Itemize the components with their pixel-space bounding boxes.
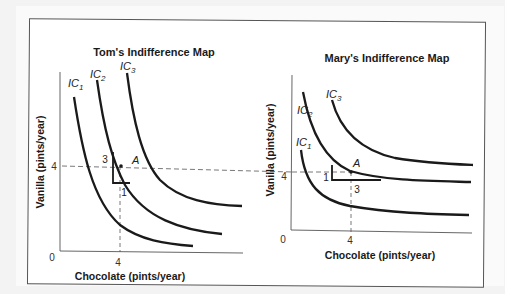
mary-origin-label: 0 <box>280 234 286 245</box>
tom-ic1-label: IC1 <box>68 77 83 92</box>
mary-x-label: Chocolate (pints/year) <box>325 249 435 261</box>
mary-y-tick-4: 4 <box>281 171 287 182</box>
tom-x-tick-4: 4 <box>115 257 121 268</box>
tom-x-axis <box>60 251 243 253</box>
mary-ic2-label: IC2 <box>297 104 313 119</box>
tom-ic2-curve <box>97 80 222 234</box>
mary-ic3-curve <box>332 100 473 165</box>
mary-y-axis <box>291 75 292 230</box>
tom-point-a-label: A <box>131 154 139 166</box>
tom-x-label: Chocolate (pints/year) <box>75 270 185 282</box>
mary-triangle-horizontal-label: 3 <box>354 184 360 195</box>
tom-triangle-vertical-label: 3 <box>102 154 108 165</box>
mary-ic3-label: IC3 <box>326 88 342 103</box>
mary-triangle-vertical-label: 1 <box>323 172 329 183</box>
tom-y-tick-4: 4 <box>51 161 57 172</box>
tom-ic3-label: IC3 <box>120 60 136 75</box>
tom-ic3-curve <box>127 73 242 206</box>
mary-ic1-label: IC1 <box>296 136 311 151</box>
mary-point-a <box>349 170 353 174</box>
mary-x-axis <box>291 230 472 233</box>
mary-panel: Mary's Indifference Map Vanilla (pints/y… <box>264 52 473 261</box>
tom-point-a <box>119 164 123 168</box>
mary-point-a-label: A <box>352 157 360 169</box>
tom-title: Tom's Indifference Map <box>93 46 215 58</box>
tom-origin-label: 0 <box>49 252 55 263</box>
shared-dashed-line-vanilla-4 <box>62 166 292 172</box>
indifference-maps-diagram: Tom's Indifference Map Vanilla (pints/ye… <box>0 0 505 294</box>
mary-ic2-curve <box>303 92 471 182</box>
tom-y-label: Vanilla (pints/year) <box>34 116 46 209</box>
tom-triangle-horizontal-label: 1 <box>121 187 127 198</box>
mary-x-tick-4: 4 <box>347 235 353 246</box>
tom-panel: Tom's Indifference Map Vanilla (pints/ye… <box>34 46 243 282</box>
mary-title: Mary's Indifference Map <box>325 52 450 64</box>
mary-y-label: Vanilla (pints/year) <box>264 104 276 197</box>
